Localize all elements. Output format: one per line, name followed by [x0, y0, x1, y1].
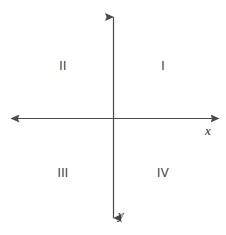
quadrant-1-label: I: [161, 60, 165, 72]
x-axis-label: x: [205, 124, 211, 137]
quadrant-3-label: III: [58, 167, 69, 179]
quadrant-2-label: II: [59, 60, 66, 72]
axes-diagram: [0, 0, 226, 235]
quadrant-4-label: IV: [157, 167, 169, 179]
coordinate-plane-figure: x y I II III IV: [0, 0, 226, 235]
y-axis-label: y: [118, 208, 124, 221]
